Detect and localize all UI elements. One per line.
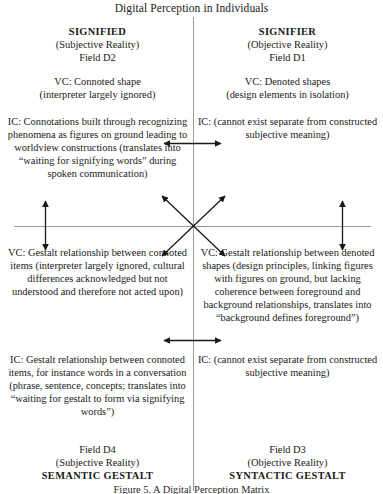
quadrant-bottom-left-ic: IC: Gestalt relationship between connote… — [6, 353, 189, 418]
quadrant-top-left-header: SIGNIFIED (Subjective Reality) Field D2 … — [6, 25, 189, 101]
quadrant-bottom-left-vc: VC: Gestalt relationship between connote… — [6, 246, 189, 298]
quadrant-top-left-field: Field D2 — [6, 51, 189, 64]
quadrant-bottom-right-vc-text: VC: Gestalt relationship between denoted… — [196, 246, 379, 325]
page-title: Digital Perception in Individuals — [0, 1, 383, 15]
quadrant-bottom-right-heading: SYNTACTIC GESTALT — [196, 469, 379, 482]
quadrant-bottom-left-heading: SEMANTIC GESTALT — [6, 469, 189, 482]
horizontal-axis-divider — [14, 226, 371, 227]
spacer — [6, 64, 189, 75]
quadrant-top-left-ic-text: IC: Connotations built through recognizi… — [6, 115, 189, 180]
quadrant-bottom-left-ic-text: IC: Gestalt relationship between connote… — [6, 353, 189, 418]
quadrant-top-right-header: SIGNIFIER (Objective Reality) Field D1 V… — [196, 25, 379, 101]
quadrant-bottom-left-vc-text: VC: Gestalt relationship between connote… — [6, 246, 189, 298]
quadrant-bottom-left-field: Field D4 — [6, 443, 189, 456]
quadrant-bottom-left-reality: (Subjective Reality) — [6, 456, 189, 469]
spacer — [196, 64, 379, 75]
quadrant-bottom-left-footer: Field D4 (Subjective Reality) SEMANTIC G… — [6, 443, 189, 482]
quadrant-bottom-right-ic-text: IC: (cannot exist separate from construc… — [196, 353, 379, 379]
quadrant-bottom-right-footer: Field D3 (Objective Reality) SYNTACTIC G… — [196, 443, 379, 482]
quadrant-bottom-right-vc: VC: Gestalt relationship between denoted… — [196, 246, 379, 325]
digital-perception-matrix-diagram: Digital Perception in Individuals SIGNIF… — [0, 0, 383, 494]
quadrant-top-left-heading: SIGNIFIED — [6, 25, 189, 38]
quadrant-bottom-right-ic: IC: (cannot exist separate from construc… — [196, 353, 379, 379]
figure-caption: Figure 5. A Digital Perception Matrix — [0, 483, 383, 494]
quadrant-top-right-reality: (Objective Reality) — [196, 38, 379, 51]
quadrant-top-left-vc-text: VC: Connoted shape (interpreter largely … — [6, 75, 189, 101]
quadrant-top-right-heading: SIGNIFIER — [196, 25, 379, 38]
quadrant-top-left-ic: IC: Connotations built through recognizi… — [6, 115, 189, 180]
quadrant-top-right-ic: IC: (cannot exist separate from construc… — [196, 115, 379, 141]
quadrant-bottom-right-field: Field D3 — [196, 443, 379, 456]
quadrant-top-right-field: Field D1 — [196, 51, 379, 64]
vertical-axis-divider — [193, 17, 194, 491]
quadrant-bottom-right-reality: (Objective Reality) — [196, 456, 379, 469]
quadrant-top-right-ic-text: IC: (cannot exist separate from construc… — [196, 115, 379, 141]
quadrant-top-right-vc-text: VC: Denoted shapes (design elements in i… — [196, 75, 379, 101]
quadrant-top-left-reality: (Subjective Reality) — [6, 38, 189, 51]
